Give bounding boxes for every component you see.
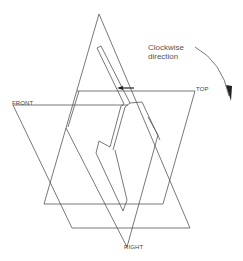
clockwise-annotation: Clockwise direction: [148, 43, 184, 61]
right-label: RIGHT: [124, 244, 143, 250]
part-outline: [96, 46, 160, 211]
annotation-line-1: Clockwise: [148, 43, 184, 52]
curved-arrow-clockwise-icon: [195, 47, 232, 101]
front-label: FRONT: [12, 100, 33, 106]
annotation-line-2: direction: [148, 52, 184, 61]
top-label: TOP: [196, 86, 209, 92]
right-plane-inverted: [66, 117, 158, 247]
edge-double: [68, 91, 79, 127]
planes-diagram: [0, 0, 243, 261]
